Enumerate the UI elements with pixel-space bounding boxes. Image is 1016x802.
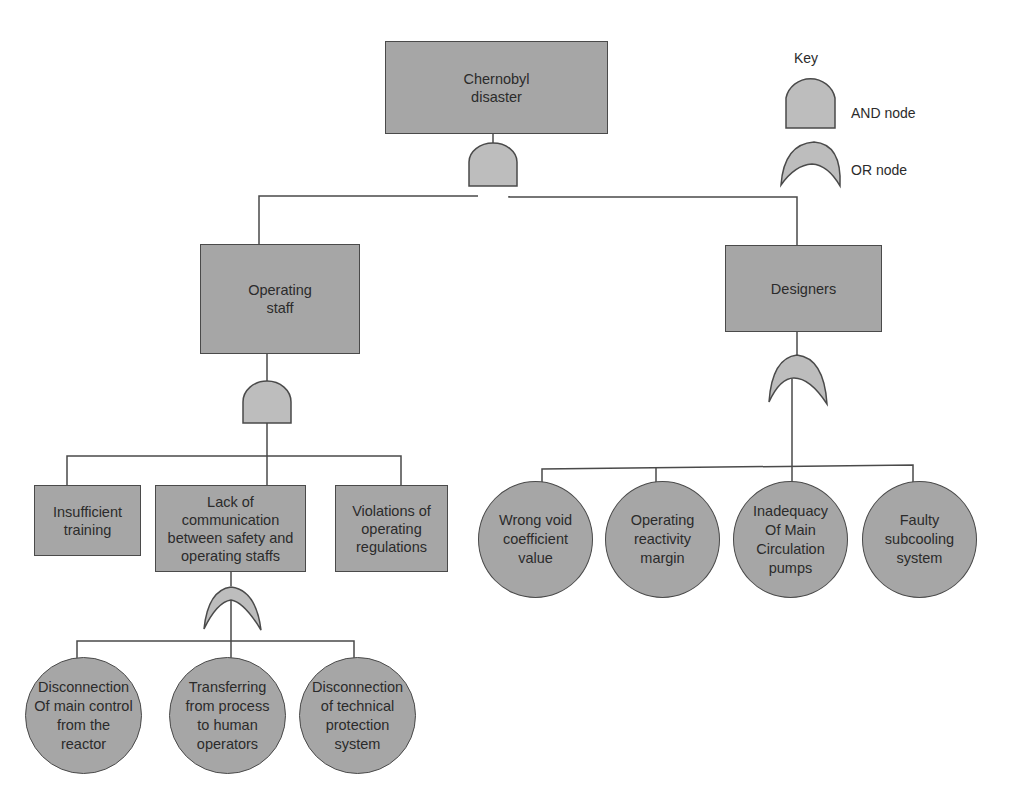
or-gate-icon — [769, 355, 827, 404]
top-event-chernobyl-disaster: Chernobyl disaster — [385, 41, 608, 134]
node-disconnection-main-control: Disconnection Of main control from the r… — [25, 657, 142, 774]
node-inadequacy-circulation-pumps: Inadequacy Of Main Circulation pumps — [733, 481, 848, 598]
node-insufficient-training: Insufficient training — [34, 485, 141, 556]
key-or-label: OR node — [851, 162, 907, 178]
key-title: Key — [794, 50, 818, 66]
node-lack-of-communication: Lack of communication between safety and… — [155, 485, 306, 572]
node-transferring-to-human: Transferring from process to human opera… — [169, 657, 286, 774]
node-violations-of-regulations: Violations of operating regulations — [335, 485, 448, 572]
node-operating-reactivity-margin: Operating reactivity margin — [605, 481, 720, 598]
node-designers: Designers — [725, 245, 882, 332]
node-faulty-subcooling: Faulty subcooling system — [862, 481, 977, 598]
key-and-label: AND node — [851, 105, 916, 121]
key-or-icon — [781, 142, 840, 186]
or-gate-icon — [204, 587, 261, 630]
and-gate-icon — [469, 143, 517, 186]
key-and-icon — [786, 79, 835, 128]
node-operating-staff: Operating staff — [200, 244, 360, 354]
node-disconnection-technical-protection: Disconnection of technical protection sy… — [299, 657, 416, 774]
node-wrong-void-coefficient: Wrong void coefficient value — [478, 481, 593, 598]
and-gate-icon — [243, 381, 291, 423]
